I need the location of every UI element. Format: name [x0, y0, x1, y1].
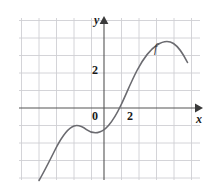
y-axis	[100, 16, 109, 180]
x-axis	[19, 104, 203, 113]
function-curve	[39, 41, 188, 180]
graph-figure: y x 2 0 2 f	[0, 0, 209, 193]
graph-canvas	[0, 0, 209, 193]
y-axis-label: y	[94, 14, 99, 26]
x-tick-label-2: 2	[127, 110, 133, 122]
x-axis-label: x	[196, 113, 202, 125]
y-tick-label-2: 2	[92, 64, 98, 76]
curve-label-f: f	[154, 42, 157, 54]
origin-label: 0	[92, 110, 98, 122]
